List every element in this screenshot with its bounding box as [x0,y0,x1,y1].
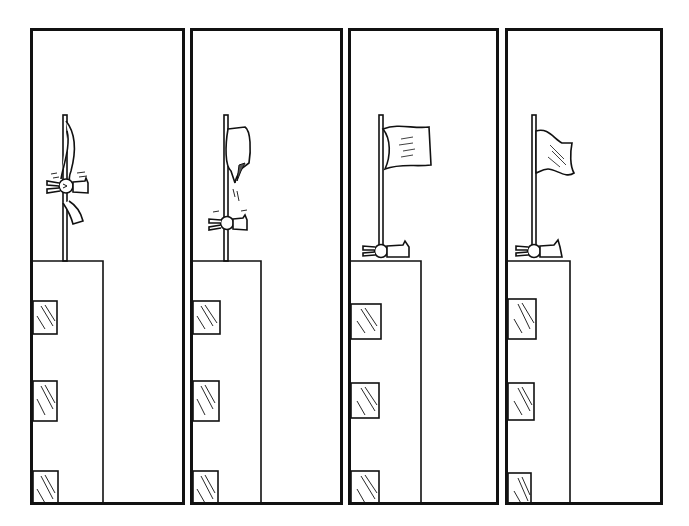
panel-2-drawing [193,31,343,505]
panel-4-drawing [508,31,663,505]
comic-panel-4: The flag waves; the bunny remains lying … [505,28,663,505]
panel-1-drawing [33,31,185,505]
comic-strip: A bunny spins around a flagpole on a roo… [0,0,689,526]
comic-panel-3: The flag flies fully; the bunny lies fla… [348,28,499,505]
comic-title [0,0,1,1]
panel-3-drawing [351,31,499,505]
comic-panel-2: The bunny slides lower on the pole; the … [190,28,343,505]
comic-panel-1: A bunny spins around a flagpole on a roo… [30,28,185,505]
